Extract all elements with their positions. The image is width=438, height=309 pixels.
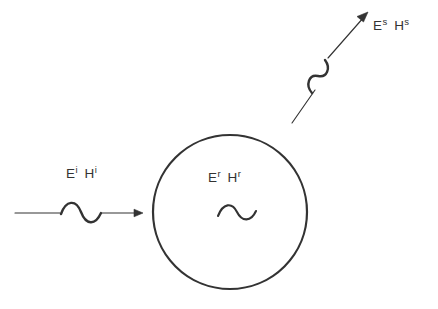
- interior-h-symbol: H: [228, 170, 238, 185]
- incident-h-superscript: i: [95, 164, 97, 175]
- scatterer-circle: [153, 135, 307, 289]
- incident-sine-squiggle: [61, 203, 101, 222]
- incident-field-label: EiHi: [66, 166, 97, 181]
- diagram-canvas: [0, 0, 438, 309]
- incident-arrow-head: [134, 209, 143, 217]
- scattered-h-superscript: s: [404, 16, 409, 27]
- incident-h-symbol: H: [85, 166, 95, 181]
- interior-sine-squiggle: [218, 205, 256, 219]
- scattered-h-symbol: H: [394, 18, 404, 33]
- incident-e-symbol: E: [66, 166, 75, 181]
- scattered-e-superscript: s: [382, 16, 387, 27]
- scattered-arrow-shaft-upper: [328, 17, 364, 58]
- scattered-e-symbol: E: [373, 18, 382, 33]
- scattered-field-label: EsHs: [373, 18, 409, 33]
- incident-e-superscript: i: [75, 164, 77, 175]
- interior-e-symbol: E: [208, 170, 217, 185]
- scattered-arrow-head: [357, 12, 368, 22]
- interior-field-label: ErHr: [208, 170, 241, 185]
- interior-h-superscript: r: [238, 168, 241, 179]
- scattered-sine-squiggle: [308, 60, 327, 93]
- interior-e-superscript: r: [217, 168, 220, 179]
- scattering-diagram: EiHi ErHr EsHs: [0, 0, 438, 309]
- scattered-arrow-shaft-lower: [292, 90, 315, 123]
